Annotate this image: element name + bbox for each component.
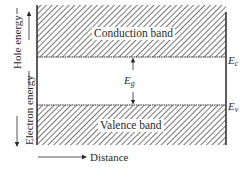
valence-band-label: Valence band [98,119,164,132]
electron-energy-label: Electron energy [23,75,35,145]
conduction-edge-symbol: Ec [228,54,238,70]
hole-energy-label: Hole energy [11,15,23,69]
band-gap-symbol: Eg [124,74,135,90]
distance-label: Distance [90,151,128,163]
conduction-band-label: Conduction band [92,27,175,40]
energy-band-diagram: Conduction band Valence band Eg Ec Ev Ho… [0,0,250,169]
valence-edge-symbol: Ev [228,100,238,116]
